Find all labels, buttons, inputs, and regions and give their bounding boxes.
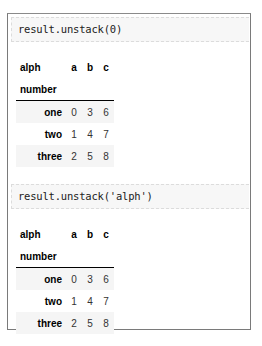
table-row: one 0 3 6 (16, 101, 114, 124)
row-label: three (16, 312, 66, 334)
table-row: two 1 4 7 (16, 290, 114, 312)
row-label: one (16, 101, 66, 124)
cell-value: 6 (98, 268, 114, 291)
index-name: number (16, 78, 66, 101)
code-cell-1[interactable]: result.unstack(0) (11, 17, 249, 42)
code-text: result.unstack('alph') (18, 190, 153, 202)
index-name-row: number (16, 245, 114, 268)
columns-name: alph (16, 223, 66, 245)
code-cell-2[interactable]: result.unstack('alph') (11, 184, 249, 209)
cell-value: 3 (82, 268, 98, 291)
cell-value: 3 (82, 101, 98, 124)
code-text: result.unstack(0) (18, 23, 122, 35)
cell-value: 1 (66, 290, 82, 312)
cell-value: 4 (82, 123, 98, 145)
row-label: one (16, 268, 66, 291)
column-header: c (98, 56, 114, 78)
cell-value: 8 (98, 312, 114, 334)
cell-value: 0 (66, 101, 82, 124)
table-row: three 2 5 8 (16, 312, 114, 334)
dataframe-output-2: alph a b c number one 0 3 6 two 1 4 7 (16, 223, 114, 334)
columns-header-row: alph a b c (16, 56, 114, 78)
cell-value: 7 (98, 290, 114, 312)
row-label: two (16, 290, 66, 312)
columns-name: alph (16, 56, 66, 78)
table-row: one 0 3 6 (16, 268, 114, 291)
cell-value: 6 (98, 101, 114, 124)
row-label: three (16, 145, 66, 167)
column-header: b (82, 223, 98, 245)
column-header: a (66, 223, 82, 245)
cell-value: 1 (66, 123, 82, 145)
index-name-row: number (16, 78, 114, 101)
cell-value: 8 (98, 145, 114, 167)
row-label: two (16, 123, 66, 145)
table-row: three 2 5 8 (16, 145, 114, 167)
cell-value: 5 (82, 312, 98, 334)
dataframe-output-1: alph a b c number one 0 3 6 two 1 4 7 (16, 56, 114, 167)
cell-value: 2 (66, 145, 82, 167)
index-name: number (16, 245, 66, 268)
notebook-frame: result.unstack(0) alph a b c number one … (7, 13, 251, 330)
column-header: a (66, 56, 82, 78)
table-row: two 1 4 7 (16, 123, 114, 145)
column-header: c (98, 223, 114, 245)
cell-value: 4 (82, 290, 98, 312)
cell-value: 0 (66, 268, 82, 291)
cell-value: 2 (66, 312, 82, 334)
cell-value: 7 (98, 123, 114, 145)
cell-value: 5 (82, 145, 98, 167)
column-header: b (82, 56, 98, 78)
columns-header-row: alph a b c (16, 223, 114, 245)
